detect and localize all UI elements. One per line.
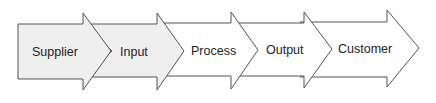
stage-label-customer: Customer	[338, 42, 392, 56]
stage-label-process: Process	[191, 44, 236, 58]
stage-label-input: Input	[120, 45, 148, 59]
stage-label-output: Output	[266, 43, 304, 57]
stage-label-supplier: Supplier	[32, 45, 78, 59]
